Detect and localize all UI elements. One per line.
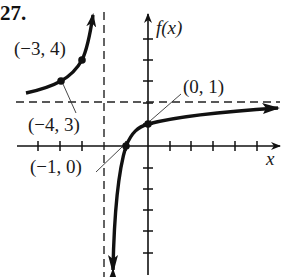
- leader-neg1-0: [96, 147, 122, 172]
- y-axis: [143, 14, 153, 275]
- problem-number: 27.: [0, 1, 26, 25]
- point-neg3-4: [78, 56, 86, 64]
- y-axis-label: f(x): [156, 17, 182, 39]
- leader-neg4-3: [63, 84, 76, 113]
- point-neg1-0: [122, 142, 130, 150]
- label-point-0-1: (0, 1): [183, 76, 224, 98]
- label-point-neg1-0: (−1, 0): [30, 156, 82, 178]
- x-axis-label: x: [265, 148, 275, 169]
- function-graph: 27.: [0, 0, 283, 277]
- curve-right-branch: [113, 108, 278, 270]
- point-0-1: [144, 120, 152, 128]
- point-neg4-3: [57, 77, 65, 85]
- label-point-neg4-3: (−4, 3): [28, 114, 80, 136]
- label-point-neg3-4: (−3, 4): [14, 38, 66, 60]
